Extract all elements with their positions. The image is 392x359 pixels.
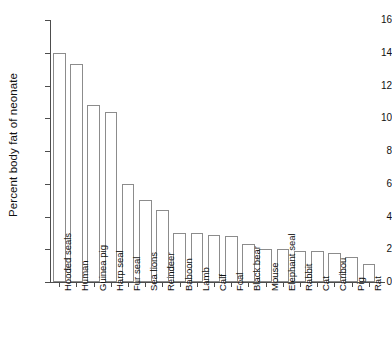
x-tick-label: Calf (218, 274, 228, 291)
y-tick-mark (45, 86, 50, 87)
x-tick-mark (214, 282, 215, 287)
x-tick-mark (352, 282, 353, 287)
x-tick-label: Sea lions (149, 252, 159, 291)
y-tick-mark (45, 282, 50, 283)
x-tick-label: Rat (373, 276, 383, 291)
x-tick-label: Hooded seals (63, 233, 73, 291)
x-tick-label: Harp seal (115, 250, 125, 291)
x-tick-label: Guinea pig (98, 245, 108, 291)
x-tick-label: Fur seal (132, 257, 142, 291)
x-tick-mark (283, 282, 284, 287)
y-tick-label: 4 (352, 212, 392, 222)
x-tick-mark (111, 282, 112, 287)
x-tick-mark (334, 282, 335, 287)
y-tick-mark (45, 217, 50, 218)
y-tick-mark (45, 151, 50, 152)
x-tick-mark (94, 282, 95, 287)
x-tick-mark (162, 282, 163, 287)
x-tick-mark (300, 282, 301, 287)
x-tick-mark (317, 282, 318, 287)
y-tick-label: 8 (352, 146, 392, 156)
x-tick-mark (76, 282, 77, 287)
x-tick-label: Elephant seal (287, 233, 297, 291)
x-tick-mark (369, 282, 370, 287)
x-tick-mark (248, 282, 249, 287)
x-tick-mark (59, 282, 60, 287)
x-tick-label: Caribou (338, 258, 348, 291)
y-tick-mark (45, 249, 50, 250)
y-tick-label: 10 (352, 113, 392, 123)
bar-chart: Percent body fat of neonate 024681012141… (0, 0, 392, 359)
x-tick-label: Foal (235, 273, 245, 291)
y-tick-mark (45, 20, 50, 21)
x-tick-label: Reindeer (166, 252, 176, 291)
y-axis-title-text: Percent body fat of neonate (7, 73, 19, 217)
x-tick-mark (180, 282, 181, 287)
x-tick-mark (266, 282, 267, 287)
y-tick-mark (45, 53, 50, 54)
x-tick-label: Black bear (252, 246, 262, 291)
x-tick-mark (128, 282, 129, 287)
y-tick-label: 16 (352, 15, 392, 25)
x-tick-label: Mouse (270, 262, 280, 291)
y-axis-title: Percent body fat of neonate (2, 0, 24, 290)
x-tick-label: Lamb (201, 267, 211, 291)
x-tick-label: Cat (321, 276, 331, 291)
y-tick-mark (45, 118, 50, 119)
x-tick-mark (231, 282, 232, 287)
y-axis-line (50, 20, 51, 282)
x-tick-mark (145, 282, 146, 287)
y-tick-label: 12 (352, 81, 392, 91)
y-tick-label: 2 (352, 244, 392, 254)
x-tick-label: Baboon (184, 258, 194, 291)
y-tick-label: 6 (352, 179, 392, 189)
x-tick-label: Pig (356, 277, 366, 291)
y-tick-label: 14 (352, 48, 392, 58)
x-tick-label: Human (80, 260, 90, 291)
y-tick-mark (45, 184, 50, 185)
x-tick-mark (197, 282, 198, 287)
x-tick-label: Rabbit (304, 264, 314, 291)
